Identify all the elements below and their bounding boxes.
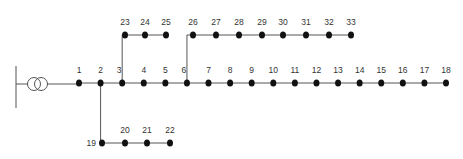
bus-node-17[interactable] xyxy=(421,79,427,86)
bus-label-7: 7 xyxy=(206,65,211,75)
bus-node-5[interactable] xyxy=(162,79,168,86)
bus-label-21: 21 xyxy=(142,125,152,135)
bus-label-9: 9 xyxy=(249,65,254,75)
bus-label-2: 2 xyxy=(98,65,103,75)
bus-node-12[interactable] xyxy=(313,79,319,86)
bus-node-8[interactable] xyxy=(227,79,233,86)
bus-node-3[interactable] xyxy=(119,79,125,86)
bus-node-20[interactable] xyxy=(122,139,128,146)
bus-node-32[interactable] xyxy=(326,31,332,38)
line-segment-3-23 xyxy=(122,35,125,83)
bus-label-23: 23 xyxy=(120,17,130,27)
bus-label-1: 1 xyxy=(77,65,82,75)
bus-node-31[interactable] xyxy=(303,31,309,38)
bus-node-6[interactable] xyxy=(184,79,190,86)
bus-node-2[interactable] xyxy=(98,79,104,86)
bus-node-4[interactable] xyxy=(141,79,147,86)
network-diagram: 1234567891011121314151617181920212223242… xyxy=(0,0,463,159)
bus-label-22: 22 xyxy=(165,125,175,135)
bus-label-20: 20 xyxy=(120,125,130,135)
bus-node-16[interactable] xyxy=(400,79,406,86)
bus-label-12: 12 xyxy=(312,65,322,75)
bus-label-3: 3 xyxy=(117,65,122,75)
bus-node-30[interactable] xyxy=(280,31,286,38)
bus-label-14: 14 xyxy=(355,65,365,75)
bus-label-18: 18 xyxy=(441,65,451,75)
bus-label-33: 33 xyxy=(346,17,356,27)
bus-label-4: 4 xyxy=(141,65,146,75)
bus-label-5: 5 xyxy=(163,65,168,75)
bus-node-23[interactable] xyxy=(122,31,128,38)
bus-node-28[interactable] xyxy=(236,31,242,38)
bus-label-6: 6 xyxy=(182,65,187,75)
bus-label-16: 16 xyxy=(398,65,408,75)
bus-label-13: 13 xyxy=(333,65,343,75)
bus-label-8: 8 xyxy=(228,65,233,75)
line-segment-2-19 xyxy=(101,83,102,143)
bus-label-26: 26 xyxy=(188,17,198,27)
bus-label-28: 28 xyxy=(234,17,244,27)
bus-node-18[interactable] xyxy=(443,79,449,86)
bus-node-10[interactable] xyxy=(270,79,276,86)
bus-label-32: 32 xyxy=(324,17,334,27)
bus-node-1[interactable] xyxy=(76,79,82,86)
bus-label-11: 11 xyxy=(290,65,299,75)
bus-label-27: 27 xyxy=(211,17,221,27)
bus-node-9[interactable] xyxy=(249,79,255,86)
bus-node-15[interactable] xyxy=(378,79,384,86)
bus-node-11[interactable] xyxy=(292,79,298,86)
bus-node-13[interactable] xyxy=(335,79,341,86)
bus-label-10: 10 xyxy=(269,65,279,75)
bus-node-33[interactable] xyxy=(348,31,354,38)
bus-node-21[interactable] xyxy=(144,139,150,146)
bus-label-31: 31 xyxy=(301,17,311,27)
transformer-icon xyxy=(28,78,48,91)
bus-node-22[interactable] xyxy=(167,139,173,146)
bus-node-27[interactable] xyxy=(213,31,219,38)
source-bus xyxy=(16,66,79,108)
bus-label-30: 30 xyxy=(278,17,288,27)
bus-label-24: 24 xyxy=(140,17,150,27)
line-segments xyxy=(79,35,446,143)
bus-node-29[interactable] xyxy=(259,31,265,38)
line-segment-6-26 xyxy=(187,35,193,83)
bus-node-25[interactable] xyxy=(163,31,169,38)
bus-node-14[interactable] xyxy=(357,79,363,86)
bus-label-19: 19 xyxy=(87,138,97,148)
bus-nodes xyxy=(76,31,449,146)
bus-node-26[interactable] xyxy=(190,31,196,38)
bus-node-7[interactable] xyxy=(206,79,212,86)
bus-label-17: 17 xyxy=(420,65,430,75)
bus-label-25: 25 xyxy=(161,17,171,27)
bus-label-29: 29 xyxy=(257,17,267,27)
bus-label-15: 15 xyxy=(377,65,387,75)
bus-node-24[interactable] xyxy=(142,31,148,38)
bus-node-19[interactable] xyxy=(99,139,105,146)
